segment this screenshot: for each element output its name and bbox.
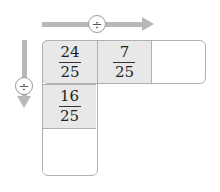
arrow-right-icon <box>142 17 154 31</box>
top-row: 24 25 7 25 <box>42 40 206 84</box>
denominator: 25 <box>60 65 79 80</box>
cell-start: 24 25 <box>43 41 97 84</box>
denominator: 25 <box>115 65 134 80</box>
fraction: 7 25 <box>113 45 135 80</box>
fraction: 24 25 <box>59 45 81 80</box>
arrow-down-icon <box>17 96 31 108</box>
fraction: 16 25 <box>59 89 81 124</box>
answer-cell-row3[interactable] <box>43 128 96 174</box>
numerator: 16 <box>60 89 79 104</box>
cell-col2: 7 25 <box>97 41 151 84</box>
denominator: 25 <box>60 109 79 124</box>
divide-icon: ÷ <box>88 15 106 33</box>
numerator: 24 <box>60 45 79 60</box>
cell-row2: 16 25 <box>43 84 96 128</box>
answer-cell-col3[interactable] <box>151 41 205 84</box>
divide-icon: ÷ <box>15 77 33 95</box>
numerator: 7 <box>120 45 130 60</box>
